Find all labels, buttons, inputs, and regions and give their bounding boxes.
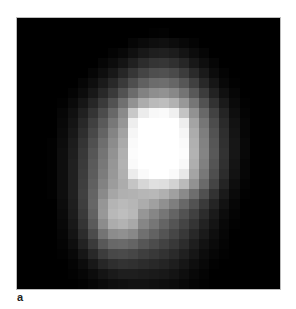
image-pixel (240, 148, 250, 158)
image-pixel (17, 118, 27, 128)
image-pixel (219, 58, 229, 68)
image-pixel (37, 189, 47, 199)
image-pixel (118, 148, 128, 158)
image-pixel (209, 209, 219, 219)
image-pixel (98, 269, 108, 279)
image-pixel (98, 48, 108, 58)
image-pixel (108, 269, 118, 279)
image-pixel (47, 179, 57, 189)
image-pixel (189, 219, 199, 229)
image-pixel (179, 199, 189, 209)
image-pixel (17, 159, 27, 169)
image-pixel (57, 48, 67, 58)
image-pixel (27, 98, 37, 108)
image-pixel (57, 249, 67, 259)
image-pixel (260, 249, 270, 259)
image-pixel (149, 259, 159, 269)
image-pixel (179, 78, 189, 88)
image-pixel (260, 48, 270, 58)
image-pixel (98, 229, 108, 239)
image-pixel (17, 219, 27, 229)
image-pixel (260, 199, 270, 209)
image-pixel (260, 189, 270, 199)
image-pixel (270, 159, 280, 169)
image-pixel (169, 179, 179, 189)
image-pixel (88, 108, 98, 118)
image-pixel (209, 249, 219, 259)
image-pixel (250, 159, 260, 169)
image-pixel (159, 138, 169, 148)
image-pixel (219, 209, 229, 219)
image-pixel (108, 259, 118, 269)
image-pixel (270, 48, 280, 58)
image-pixel (250, 58, 260, 68)
image-pixel (260, 38, 270, 48)
image-pixel (57, 179, 67, 189)
image-pixel (37, 179, 47, 189)
image-pixel (179, 98, 189, 108)
image-pixel (57, 189, 67, 199)
image-pixel (199, 189, 209, 199)
image-pixel (138, 159, 148, 169)
image-pixel (108, 249, 118, 259)
image-pixel (78, 58, 88, 68)
image-pixel (138, 108, 148, 118)
image-pixel (108, 88, 118, 98)
image-pixel (189, 209, 199, 219)
image-pixel (98, 179, 108, 189)
image-pixel (68, 58, 78, 68)
image-pixel (159, 269, 169, 279)
image-pixel (219, 148, 229, 158)
image-pixel (209, 138, 219, 148)
image-pixel (57, 169, 67, 179)
image-pixel (240, 169, 250, 179)
image-pixel (17, 98, 27, 108)
image-pixel (209, 179, 219, 189)
image-pixel (128, 189, 138, 199)
image-pixel (128, 148, 138, 158)
image-pixel (209, 239, 219, 249)
image-pixel (189, 58, 199, 68)
image-pixel (209, 189, 219, 199)
image-pixel (199, 148, 209, 158)
image-pixel (27, 209, 37, 219)
image-pixel (47, 38, 57, 48)
image-pixel (78, 128, 88, 138)
image-pixel (98, 78, 108, 88)
image-pixel (209, 199, 219, 209)
image-pixel (108, 169, 118, 179)
image-pixel (68, 98, 78, 108)
image-pixel (37, 58, 47, 68)
image-pixel (179, 179, 189, 189)
image-pixel (219, 249, 229, 259)
image-pixel (37, 279, 47, 289)
image-pixel (209, 259, 219, 269)
image-pixel (88, 159, 98, 169)
image-pixel (118, 259, 128, 269)
image-pixel (219, 118, 229, 128)
image-pixel (159, 148, 169, 158)
image-pixel (209, 38, 219, 48)
image-pixel (149, 138, 159, 148)
image-pixel (209, 48, 219, 58)
image-pixel (27, 108, 37, 118)
image-pixel (88, 189, 98, 199)
image-pixel (229, 108, 239, 118)
image-pixel (118, 108, 128, 118)
image-pixel (159, 279, 169, 289)
image-pixel (68, 68, 78, 78)
image-pixel (240, 108, 250, 118)
image-pixel (17, 138, 27, 148)
image-pixel (68, 169, 78, 179)
image-pixel (270, 98, 280, 108)
image-pixel (149, 128, 159, 138)
image-pixel (128, 259, 138, 269)
image-pixel (199, 199, 209, 209)
image-pixel (27, 229, 37, 239)
image-pixel (118, 58, 128, 68)
image-pixel (240, 128, 250, 138)
image-pixel (179, 239, 189, 249)
image-pixel (250, 88, 260, 98)
image-pixel (169, 209, 179, 219)
image-pixel (229, 18, 239, 28)
